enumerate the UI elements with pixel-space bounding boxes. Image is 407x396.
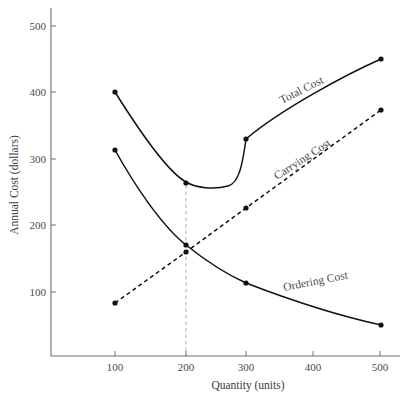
y-tick-label-300: 300: [30, 153, 47, 165]
x-tick-label-200: 200: [178, 361, 195, 373]
x-tick-label-100: 100: [107, 361, 124, 373]
y-tick-label-500: 500: [30, 20, 47, 32]
chart-background: [0, 0, 407, 396]
x-tick-label-400: 400: [305, 361, 322, 373]
y-axis-title: Annual Cost (dollars): [8, 135, 21, 235]
x-axis-title: Quantity (units): [211, 379, 284, 392]
annual-cost-vs-quantity-chart: 500 400 300 200 100 100 200 300 400 500 …: [0, 0, 407, 396]
x-tick-label-500: 500: [372, 361, 389, 373]
chart-container: 500 400 300 200 100 100 200 300 400 500 …: [0, 0, 407, 396]
x-tick-label-300: 300: [238, 361, 255, 373]
y-tick-label-200: 200: [30, 219, 47, 231]
y-tick-label-100: 100: [30, 286, 47, 298]
y-tick-label-400: 400: [30, 86, 47, 98]
